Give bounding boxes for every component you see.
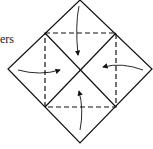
arrow-bottom-icon xyxy=(79,91,82,130)
outer-diamond xyxy=(8,0,152,143)
arrow-top-icon xyxy=(77,6,79,55)
fold-diagram xyxy=(0,0,153,149)
arrow-left-icon xyxy=(18,70,60,73)
arrow-right-icon xyxy=(103,65,143,70)
